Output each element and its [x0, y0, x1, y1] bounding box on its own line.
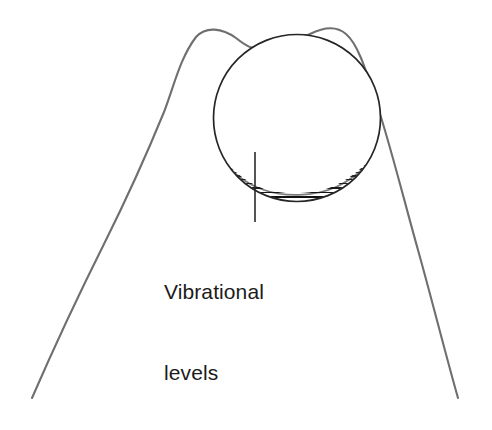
label-line-2: levels [164, 359, 264, 386]
vibrational-levels-label: Vibrational levels [164, 224, 264, 430]
label-line-1: Vibrational [164, 278, 264, 305]
potential-energy-figure: Vibrational levels [0, 0, 492, 430]
magnifier-contents [206, 32, 390, 206]
